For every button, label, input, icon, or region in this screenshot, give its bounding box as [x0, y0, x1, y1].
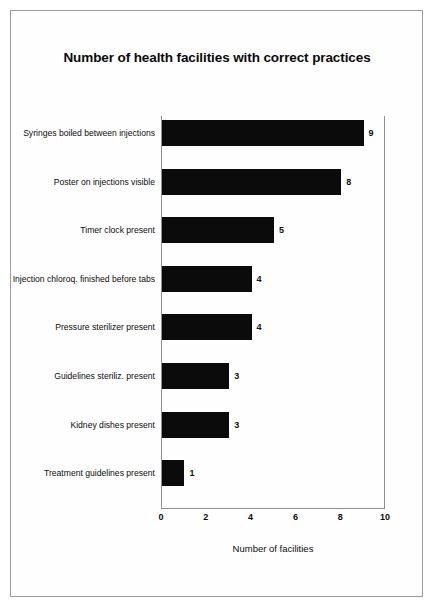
plot-area: 98544331: [161, 116, 385, 509]
bar-row: 8: [162, 169, 386, 195]
bar-row: 3: [162, 412, 386, 438]
category-label: Treatment guidelines present: [3, 460, 155, 486]
category-label: Injection chloroq. finished before tabs: [3, 266, 155, 292]
bar-row: 1: [162, 460, 386, 486]
x-axis-ticks: 0246810: [161, 512, 385, 526]
category-axis-labels: Syringes boiled between injectionsPoster…: [3, 116, 155, 509]
bar-value-label: 5: [279, 225, 284, 235]
category-label: Timer clock present: [3, 217, 155, 243]
bar-value-label: 3: [234, 420, 239, 430]
bar-value-label: 9: [369, 128, 374, 138]
x-tick-label: 8: [338, 512, 343, 522]
bar-row: 5: [162, 217, 386, 243]
category-label: Poster on injections visible: [3, 169, 155, 195]
x-tick-label: 6: [293, 512, 298, 522]
bar: [162, 169, 341, 195]
x-axis-title: Number of facilities: [161, 543, 385, 554]
category-label: Guidelines steriliz. present: [3, 363, 155, 389]
bar-value-label: 3: [234, 371, 239, 381]
x-tick-label: 10: [380, 512, 390, 522]
bar: [162, 120, 364, 146]
x-tick-label: 4: [248, 512, 253, 522]
category-label: Pressure sterilizer present: [3, 314, 155, 340]
bar: [162, 363, 229, 389]
x-tick-label: 0: [158, 512, 163, 522]
category-label: Syringes boiled between injections: [3, 120, 155, 146]
bar: [162, 412, 229, 438]
bar: [162, 217, 274, 243]
bar: [162, 266, 252, 292]
bar-row: 9: [162, 120, 386, 146]
bar-value-label: 1: [189, 468, 194, 478]
bar-value-label: 4: [257, 322, 262, 332]
bar-value-label: 4: [257, 274, 262, 284]
bar: [162, 460, 184, 486]
x-tick-label: 2: [203, 512, 208, 522]
bar-row: 4: [162, 314, 386, 340]
bar-row: 4: [162, 266, 386, 292]
category-label: Kidney dishes present: [3, 412, 155, 438]
bar: [162, 314, 252, 340]
chart-title: Number of health facilities with correct…: [0, 50, 434, 65]
bar-value-label: 8: [346, 177, 351, 187]
bar-row: 3: [162, 363, 386, 389]
